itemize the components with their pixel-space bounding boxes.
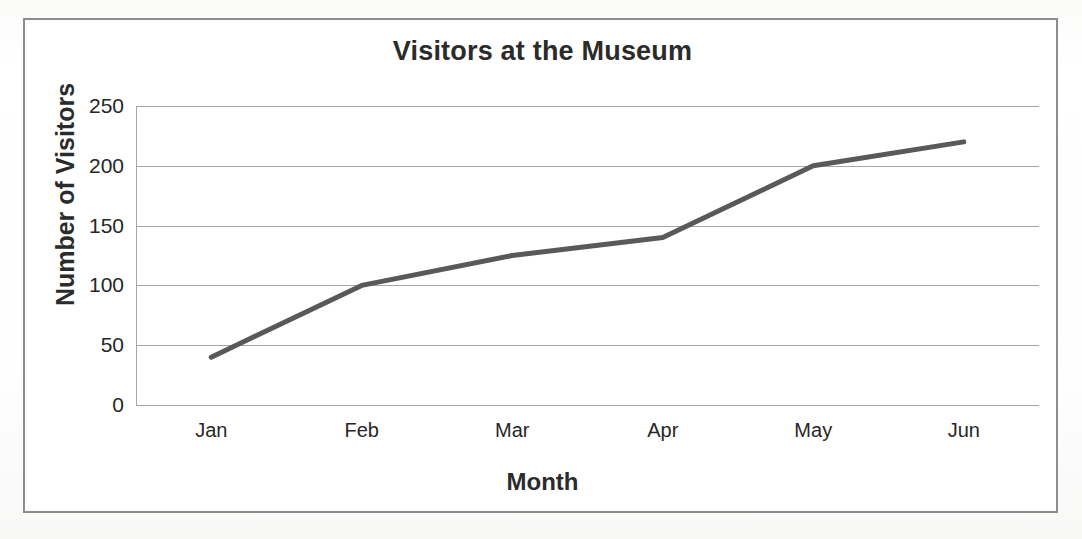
x-tick-label-apr: Apr xyxy=(647,419,678,442)
x-tick-label-jun: Jun xyxy=(948,419,980,442)
y-axis-title: Number of Visitors xyxy=(51,50,80,340)
x-tick-label-jan: Jan xyxy=(195,419,227,442)
page-background: Visitors at the Museum Number of Visitor… xyxy=(0,0,1082,539)
y-tick-label-0: 0 xyxy=(112,393,124,417)
y-tick-label-100: 100 xyxy=(89,273,124,297)
chart-title: Visitors at the Museum xyxy=(25,36,1060,67)
y-tick-label-150: 150 xyxy=(89,214,124,238)
gridline-0 xyxy=(136,405,1039,406)
x-tick-label-may: May xyxy=(794,419,832,442)
x-axis-title: Month xyxy=(25,468,1060,496)
x-tick-label-feb: Feb xyxy=(345,419,379,442)
x-tick-label-mar: Mar xyxy=(495,419,529,442)
chart-figure-frame: Visitors at the Museum Number of Visitor… xyxy=(23,18,1058,513)
data-series-line xyxy=(136,106,1039,405)
y-tick-label-200: 200 xyxy=(89,154,124,178)
y-tick-label-250: 250 xyxy=(89,94,124,118)
plot-area: 250 200 150 100 50 0 Jan Feb Mar Apr May… xyxy=(136,106,1039,405)
y-tick-label-50: 50 xyxy=(101,333,124,357)
